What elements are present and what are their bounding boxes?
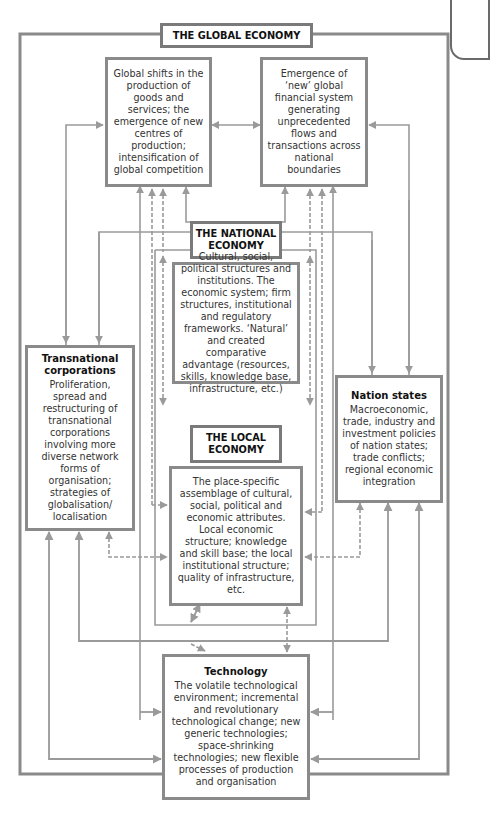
- technology-text: The volatile technological environment; …: [169, 680, 303, 788]
- global-financial-text: Emergence of ‘new’ global financial syst…: [267, 68, 361, 176]
- national-economy-title-text: THE NATIONAL ECONOMY: [193, 228, 279, 252]
- global-production-box: Global shifts in the production of goods…: [105, 57, 212, 187]
- nation-states-text: Macroeconomic, trade, industry and inves…: [342, 404, 436, 488]
- global-economy-title: THE GLOBAL ECONOMY: [160, 23, 313, 48]
- global-economy-title-text: THE GLOBAL ECONOMY: [173, 30, 301, 42]
- technology-heading: Technology: [204, 666, 267, 678]
- nation-states-box: Nation states Macroeconomic, trade, indu…: [335, 375, 443, 503]
- national-economy-text: Cultural, social, political structures a…: [179, 251, 293, 395]
- transnational-corporations-box: Transnational corporations Proliferation…: [25, 345, 135, 531]
- national-economy-box: Cultural, social, political structures a…: [172, 262, 300, 384]
- nation-states-heading: Nation states: [351, 390, 427, 402]
- global-financial-box: Emergence of ‘new’ global financial syst…: [260, 57, 368, 187]
- technology-box: Technology The volatile technological en…: [162, 654, 310, 800]
- global-production-text: Global shifts in the production of goods…: [112, 68, 205, 176]
- local-economy-title: THE LOCAL ECONOMY: [190, 425, 282, 463]
- local-economy-title-text: THE LOCAL ECONOMY: [193, 432, 279, 456]
- local-economy-text: The place-specific assemblage of cultura…: [176, 476, 296, 596]
- transnational-heading: Transnational corporations: [32, 353, 128, 377]
- local-economy-box: The place-specific assemblage of cultura…: [169, 466, 303, 606]
- transnational-text: Proliferation, spread and restructuring …: [32, 379, 128, 523]
